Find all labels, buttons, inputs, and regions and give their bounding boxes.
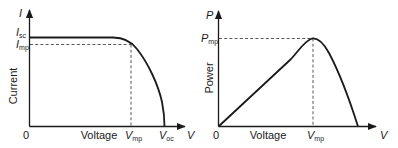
- pv-y-axis-label: Power: [203, 62, 215, 94]
- pv-x-axis-label: Voltage: [250, 129, 287, 141]
- iv-y-symbol: I: [19, 7, 22, 19]
- iv-curve: [30, 38, 165, 127]
- iv-x-axis-label: Voltage: [81, 129, 118, 141]
- voc-label: Voc: [159, 129, 174, 142]
- iv-x-symbol: V: [187, 129, 196, 141]
- iv-vmp-label: Vmp: [125, 129, 142, 143]
- pv-curve: [219, 38, 359, 126]
- pv-origin-label: 0: [213, 129, 219, 141]
- solar-cell-characteristics-figure: I Isc Imp Current 0 Voltage Vmp Voc V P …: [0, 0, 398, 148]
- pv-y-symbol: P: [206, 9, 214, 21]
- pv-vmp-label: Vmp: [307, 129, 324, 143]
- imp-label: Imp: [16, 38, 29, 52]
- iv-y-axis-label: Current: [7, 68, 19, 105]
- iv-chart: I Isc Imp Current 0 Voltage Vmp Voc V: [7, 7, 196, 143]
- pmp-label: Pmp: [201, 32, 218, 46]
- pv-x-symbol: V: [380, 129, 389, 141]
- iv-origin-label: 0: [23, 129, 29, 141]
- pv-chart: P Pmp Power 0 Voltage Vmp V: [201, 9, 389, 143]
